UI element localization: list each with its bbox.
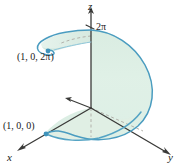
z-axis-label: z xyxy=(88,1,92,12)
z-tick-2pi xyxy=(86,25,94,29)
helicoid-figure: z x y 2π (1, 0, 2π) (1, 0, 0) xyxy=(0,0,181,168)
z-tick-label-2pi: 2π xyxy=(96,22,106,32)
y-axis-label: y xyxy=(168,152,173,163)
negative-x-stub xyxy=(68,99,91,108)
figure-canvas xyxy=(0,0,181,168)
helicoid-surface xyxy=(41,30,153,140)
negative-x-stub-arrowhead xyxy=(65,97,72,102)
point-marker-bottom xyxy=(44,132,49,137)
point-label-bottom: (1, 0, 0) xyxy=(3,121,35,131)
x-axis-label: x xyxy=(7,152,12,163)
point-label-top: (1, 0, 2π) xyxy=(17,52,54,62)
